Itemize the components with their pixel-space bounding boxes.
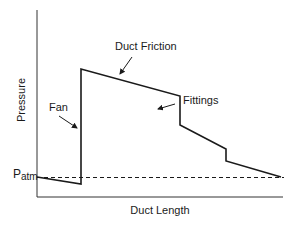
fan-label: Fan — [49, 101, 68, 113]
x-axis-label: Duct Length — [130, 204, 189, 216]
p-atm-label-sub: atm — [21, 171, 38, 182]
pressure-diagram: Duct Friction Fittings Fan Patm Pressure… — [0, 0, 297, 228]
duct-friction-arrow — [120, 57, 132, 74]
fittings-label: Fittings — [183, 94, 219, 106]
y-axis-label: Pressure — [15, 78, 27, 122]
duct-friction-label: Duct Friction — [115, 40, 177, 52]
fan-arrow — [59, 116, 77, 128]
p-atm-label-main: P — [13, 167, 21, 181]
p-atm-label: Patm — [13, 167, 38, 182]
fittings-arrow — [158, 104, 175, 109]
pressure-profile-line — [37, 69, 281, 184]
